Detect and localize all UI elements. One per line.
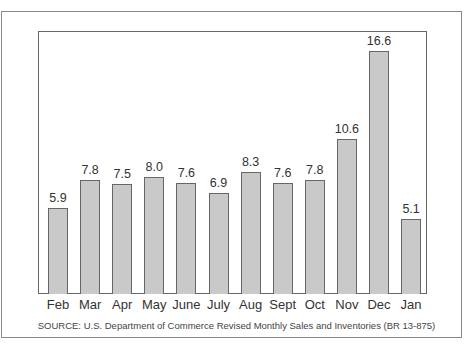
bar-mar bbox=[80, 180, 100, 294]
value-label: 5.1 bbox=[391, 202, 431, 216]
bar-may bbox=[144, 177, 164, 294]
value-label: 16.6 bbox=[359, 34, 399, 48]
value-label: 6.9 bbox=[199, 176, 239, 190]
value-label: 5.9 bbox=[38, 191, 78, 205]
bar-aug bbox=[241, 172, 261, 294]
value-label: 10.6 bbox=[327, 122, 367, 136]
bar-july bbox=[209, 193, 229, 294]
source-note: SOURCE: U.S. Department of Commerce Revi… bbox=[0, 320, 473, 331]
bar-dec bbox=[369, 51, 389, 294]
x-tick-label: Jan bbox=[391, 297, 431, 312]
bar-jan bbox=[401, 219, 421, 294]
bar-oct bbox=[305, 180, 325, 294]
bar-feb bbox=[48, 208, 68, 294]
bar-apr bbox=[112, 184, 132, 294]
value-label: 7.8 bbox=[295, 163, 335, 177]
bar-june bbox=[176, 183, 196, 294]
bar-nov bbox=[337, 139, 357, 294]
bar-sept bbox=[273, 183, 293, 294]
